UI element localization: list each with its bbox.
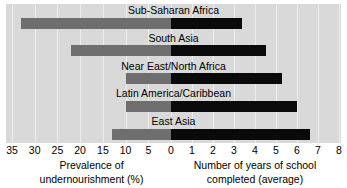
axis-tick-left: 25 bbox=[52, 144, 64, 157]
right-axis-caption-line1: Number of years of school bbox=[194, 159, 317, 171]
axis-tick-right: 4 bbox=[252, 144, 258, 157]
bar-years-of-school bbox=[171, 129, 310, 140]
category-label: Near East/North Africa bbox=[6, 60, 341, 73]
category-label: Sub-Saharan Africa bbox=[6, 4, 341, 17]
plot-area: Sub-Saharan AfricaSouth AsiaNear East/No… bbox=[6, 4, 341, 143]
axis-tick-right: 7 bbox=[315, 144, 321, 157]
left-axis-caption-line2: undernourishment (%) bbox=[40, 172, 144, 186]
chart-row: Latin America/Caribbean bbox=[6, 87, 341, 115]
x-axis-tick-labels: 3530252015105012345678 bbox=[6, 144, 341, 157]
axis-tick-left: 5 bbox=[145, 144, 151, 157]
bar-years-of-school bbox=[171, 73, 282, 84]
bar-years-of-school bbox=[171, 45, 266, 56]
left-axis-caption: Prevalence of undernourishment (%) bbox=[40, 158, 144, 186]
chart-row: East Asia bbox=[6, 115, 341, 143]
bidirectional-bar-chart: Sub-Saharan AfricaSouth AsiaNear East/No… bbox=[0, 0, 347, 188]
bar-years-of-school bbox=[171, 101, 297, 112]
axis-tick-right: 8 bbox=[336, 144, 342, 157]
axis-captions: Prevalence of undernourishment (%) Numbe… bbox=[6, 158, 341, 188]
category-label: Latin America/Caribbean bbox=[6, 87, 341, 100]
chart-row: Near East/North Africa bbox=[6, 60, 341, 88]
bar-undernourishment bbox=[71, 45, 171, 56]
axis-tick-left: 10 bbox=[120, 144, 132, 157]
bar-undernourishment bbox=[126, 73, 171, 84]
axis-tick-left: 15 bbox=[97, 144, 109, 157]
axis-tick-right: 1 bbox=[189, 144, 195, 157]
axis-tick-right: 6 bbox=[294, 144, 300, 157]
bar-undernourishment bbox=[21, 18, 171, 29]
axis-tick-right: 3 bbox=[231, 144, 237, 157]
axis-tick-left: 20 bbox=[74, 144, 86, 157]
right-axis-caption: Number of years of school completed (ave… bbox=[194, 158, 317, 186]
chart-row: South Asia bbox=[6, 32, 341, 60]
axis-tick-left: 30 bbox=[29, 144, 41, 157]
chart-title-cutoff bbox=[0, 0, 347, 3]
left-axis-caption-line1: Prevalence of bbox=[59, 159, 123, 171]
bar-undernourishment bbox=[112, 129, 171, 140]
axis-tick-center: 0 bbox=[168, 144, 174, 157]
axis-tick-right: 2 bbox=[210, 144, 216, 157]
bar-years-of-school bbox=[171, 18, 242, 29]
category-label: South Asia bbox=[6, 32, 341, 45]
category-label: East Asia bbox=[6, 115, 341, 128]
right-axis-caption-line2: completed (average) bbox=[194, 172, 317, 186]
bar-undernourishment bbox=[126, 101, 171, 112]
axis-tick-right: 5 bbox=[273, 144, 279, 157]
axis-tick-left: 35 bbox=[6, 144, 18, 157]
chart-row: Sub-Saharan Africa bbox=[6, 4, 341, 32]
